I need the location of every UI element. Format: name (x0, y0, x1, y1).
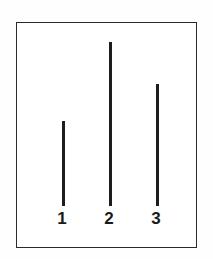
bar-line-1 (62, 121, 65, 206)
bar-label-2: 2 (94, 210, 124, 228)
plot-frame-border: 1 2 3 (16, 22, 197, 248)
plot-area: 1 2 3 (17, 23, 196, 247)
bar-label-3: 3 (141, 210, 171, 228)
bar-line-3 (156, 84, 159, 206)
figure-root: 1 2 3 (0, 0, 213, 259)
bar-line-2 (109, 42, 112, 206)
bar-label-1: 1 (47, 210, 77, 228)
